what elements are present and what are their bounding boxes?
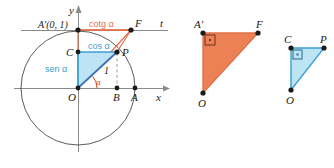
- point-C: [76, 50, 81, 55]
- triangle-OA-prime-F: [203, 33, 258, 93]
- point-O: [76, 86, 81, 91]
- point-A-prime: [75, 27, 80, 32]
- label-tangent-line-t: t: [160, 17, 164, 29]
- point-F-mid: [255, 30, 260, 35]
- trigonometry-figure: A'(0, 1) cotg α F t cos α C P sen α 1 α …: [0, 0, 334, 168]
- label-C-right: C: [284, 33, 292, 45]
- point-A-prime-mid: [200, 30, 205, 35]
- label-A-prime-mid: A': [193, 18, 204, 30]
- right-angle-dot-A-prime: [209, 39, 211, 41]
- triangle-OCP: [291, 48, 324, 90]
- label-radius-length: 1: [104, 65, 109, 76]
- label-O: O: [68, 91, 76, 103]
- label-A-prime-coords: A'(0, 1): [37, 19, 69, 31]
- figure-root: A'(0, 1) cotg α F t cos α C P sen α 1 α …: [0, 0, 334, 168]
- label-B: B: [113, 91, 120, 103]
- point-B: [115, 86, 120, 91]
- x-axis-arrow: [163, 86, 170, 92]
- point-P-right: [321, 45, 326, 50]
- point-C-right: [288, 45, 293, 50]
- label-F: F: [134, 17, 142, 29]
- y-axis-arrow: [76, 5, 82, 13]
- label-y-axis: y: [68, 4, 74, 16]
- label-sine: sen α: [45, 64, 67, 74]
- label-P-right: P: [319, 33, 327, 45]
- label-A: A: [130, 91, 138, 103]
- label-F-mid: F: [255, 18, 263, 30]
- right-angle-dot-C: [297, 54, 299, 56]
- label-angle-alpha: α: [96, 77, 101, 87]
- middle-diagram-triangle: A' F O: [193, 18, 263, 109]
- label-cosine: cos α: [88, 41, 110, 51]
- point-P: [114, 49, 119, 54]
- label-C: C: [66, 46, 74, 58]
- point-A: [133, 86, 138, 91]
- point-O-mid: [200, 90, 205, 95]
- label-cotangent: cotg α: [89, 19, 114, 29]
- label-O-right: O: [286, 94, 294, 106]
- label-P: P: [121, 46, 129, 58]
- point-F: [128, 27, 133, 32]
- label-x-axis: x: [155, 91, 161, 103]
- label-O-mid: O: [198, 97, 206, 109]
- point-O-right: [288, 87, 293, 92]
- right-diagram-triangle: C P O: [284, 33, 327, 106]
- left-diagram-unit-circle: A'(0, 1) cotg α F t cos α C P sen α 1 α …: [14, 4, 170, 152]
